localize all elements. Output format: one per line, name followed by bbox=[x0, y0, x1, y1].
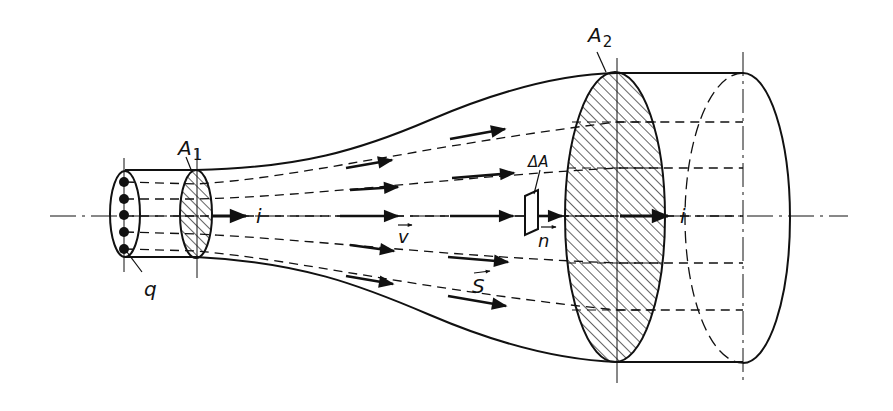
flow-arrow bbox=[350, 187, 398, 190]
flow-arrow bbox=[450, 129, 505, 139]
label-area-element: ΔA bbox=[527, 153, 549, 171]
diagram-canvas: q A1 i v S ΔA n A2 bbox=[0, 0, 893, 411]
a2-leader bbox=[597, 52, 606, 72]
label-velocity: v bbox=[398, 226, 409, 247]
flow-arrow bbox=[346, 276, 393, 284]
label-charge: q bbox=[144, 277, 157, 301]
label-a1: A1 bbox=[176, 136, 202, 164]
label-normal: n bbox=[538, 230, 549, 251]
charge-dot bbox=[119, 227, 129, 237]
charge-dot bbox=[119, 177, 129, 187]
outlet-hidden-half bbox=[685, 73, 743, 363]
label-current-density: S bbox=[472, 274, 485, 298]
cross-section-a1 bbox=[180, 170, 212, 258]
charge-dot bbox=[119, 194, 129, 204]
outlet-visible-half bbox=[743, 73, 790, 363]
q-leader bbox=[127, 252, 142, 272]
charge-dot bbox=[119, 210, 129, 220]
flow-arrow bbox=[346, 160, 392, 168]
area-element-patch bbox=[525, 190, 538, 235]
label-current-left: i bbox=[256, 204, 262, 228]
flow-arrow bbox=[448, 257, 508, 262]
current-density-vector-arrow bbox=[474, 271, 490, 273]
flow-tube-diagram: q A1 i v S ΔA n A2 bbox=[0, 0, 893, 411]
label-a2: A2 bbox=[586, 23, 612, 51]
